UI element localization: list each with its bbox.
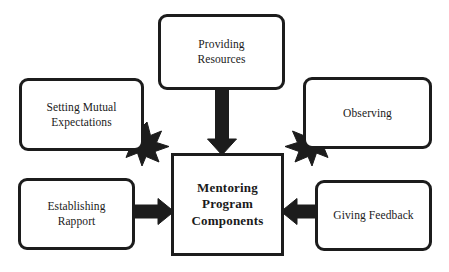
node-setting-mutual-expectations-label: Setting Mutual Expectations xyxy=(42,100,120,129)
node-setting-mutual-expectations[interactable]: Setting Mutual Expectations xyxy=(19,78,144,151)
node-providing-resources[interactable]: Providing Resources xyxy=(158,14,285,90)
node-providing-resources-label: Providing Resources xyxy=(193,37,249,66)
node-mentoring-program-components[interactable]: Mentoring Program Components xyxy=(171,153,284,256)
node-observing-label: Observing xyxy=(339,106,396,121)
node-establishing-rapport[interactable]: Establishing Rapport xyxy=(18,178,135,250)
node-establishing-rapport-label: Establishing Rapport xyxy=(43,199,109,228)
arrow-giving-feedback-icon xyxy=(281,199,319,225)
arrow-establishing-rapport-icon xyxy=(130,199,174,225)
node-giving-feedback-label: Giving Feedback xyxy=(329,208,417,223)
diagram-canvas: Providing Resources Setting Mutual Expec… xyxy=(0,0,449,272)
node-giving-feedback[interactable]: Giving Feedback xyxy=(315,180,432,251)
arrow-providing-resources-icon xyxy=(208,84,237,155)
node-observing[interactable]: Observing xyxy=(303,77,432,149)
node-mentoring-program-components-label: Mentoring Program Components xyxy=(187,180,267,228)
